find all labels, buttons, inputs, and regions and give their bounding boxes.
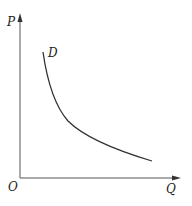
origin-label: O bbox=[8, 180, 18, 194]
y-axis-label: P bbox=[6, 15, 16, 29]
x-axis-label: Q bbox=[166, 182, 176, 196]
x-axis-arrow-icon bbox=[172, 176, 181, 181]
curve-label: D bbox=[47, 46, 58, 60]
demand-curve bbox=[43, 52, 152, 161]
demand-curve-diagram: P D O Q bbox=[0, 0, 192, 206]
y-axis-arrow-icon bbox=[18, 13, 23, 22]
